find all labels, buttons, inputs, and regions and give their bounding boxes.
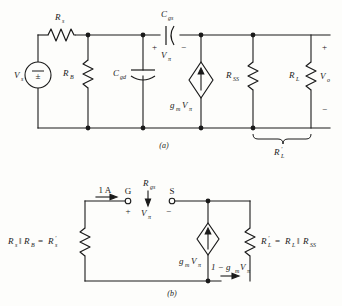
- capacitor-cgs-sub: gs: [168, 15, 174, 21]
- left-res-equals: =: [38, 236, 43, 246]
- figure-container: ± V s R s R B C: [0, 0, 342, 306]
- vo-sub: o: [327, 77, 330, 83]
- left-res-result: R: [47, 236, 54, 246]
- resistor-rss: R SS: [225, 33, 258, 131]
- depsrc-a-gm-label: g: [170, 100, 175, 110]
- capacitor-cgd: C gd: [113, 33, 155, 131]
- depsrc-a-v-label: V: [182, 100, 189, 110]
- resistor-rl-sub: L: [295, 76, 300, 82]
- rlp-rss: R: [302, 236, 309, 246]
- depsrc-b-gm-sub: m: [185, 262, 190, 268]
- circuit-a: ± V s R s R B C: [14, 9, 330, 159]
- vpi-label: V: [161, 50, 168, 60]
- vo-minus-sign: −: [322, 104, 327, 114]
- rlp-label: R: [260, 236, 267, 246]
- depsrc-b-v-label: V: [191, 256, 198, 266]
- capacitor-cgd-sub: gd: [120, 74, 127, 80]
- vo-plus-sign: +: [322, 42, 327, 52]
- vpi-plus-sign: +: [152, 42, 157, 52]
- brace-rl-sub: L: [280, 153, 285, 159]
- left-res-result-sub: s: [55, 242, 58, 248]
- resistor-rl: R L + V o −: [288, 35, 330, 128]
- rlp-rl-sub: L: [291, 242, 296, 248]
- rlp-sub: L: [267, 242, 272, 248]
- circuit-diagram-svg: ± V s R s R B C: [0, 0, 342, 306]
- terminal-s-label: S: [169, 186, 174, 196]
- brace-rl-prime: R ′ L: [253, 134, 311, 159]
- resistor-rl-prime-b: R ′ L = R L ‖ R SS: [245, 201, 316, 281]
- resistor-rgs-label: R: [142, 178, 149, 188]
- vpi-minus-sign: −: [181, 42, 186, 52]
- vpi-b-sub: π: [148, 214, 152, 220]
- branch-current-annotation: 1 − g m V π: [211, 262, 251, 279]
- left-res-parallel-1: ‖: [19, 236, 22, 246]
- left-res-rb-sub: B: [31, 242, 35, 248]
- resistor-rss-sub: SS: [233, 76, 239, 82]
- node-dot-rss-bottom: [251, 126, 256, 131]
- resistor-rgs-sub: gs: [150, 184, 156, 190]
- depsrc-b-gm-label: g: [179, 256, 184, 266]
- figure-caption-b: (b): [167, 289, 177, 298]
- vpi-b-label: V: [141, 208, 148, 218]
- resistor-rgs-annotation: R gs: [142, 178, 156, 206]
- capacitor-cgs-label: C: [161, 9, 168, 19]
- terminal-g: G +: [125, 186, 132, 216]
- left-resistor-expression: R s ‖ R B = R ′ s: [7, 235, 58, 248]
- capacitor-cgd-label: C: [113, 68, 120, 78]
- resistor-rl-label: R: [288, 70, 295, 80]
- vpi-b-plus-sign: +: [125, 206, 130, 216]
- vpi-sub: π: [168, 56, 172, 62]
- left-res-result-prime: ′: [55, 235, 57, 241]
- vpi-b-minus-sign: −: [166, 206, 171, 216]
- resistor-rs-label: R: [54, 12, 61, 22]
- node-dot-cgd-bottom: [141, 126, 146, 131]
- vpi-b-annotation: V π −: [141, 206, 171, 220]
- depsrc-a-v-sub: π: [189, 106, 193, 112]
- circuit-b: 1 A G + R gs V π − S: [7, 178, 316, 298]
- resistor-rb: R B: [62, 33, 93, 131]
- resistor-rb-sub: B: [70, 74, 74, 80]
- depsrc-b-v-sub: π: [198, 262, 202, 268]
- voltage-source-vs: ± V s: [14, 35, 51, 128]
- source-plusminus-symbol: ±: [36, 71, 41, 81]
- brace-rl-prime-mark: ′: [281, 146, 283, 152]
- node-dot-b-depsrc-bottom: [206, 279, 211, 284]
- current-injection-1a: 1 A: [96, 185, 117, 200]
- rlp-equals: =: [275, 236, 280, 246]
- branch-current-v: V: [240, 262, 247, 272]
- rlp-prime-mark: ′: [268, 235, 270, 241]
- source-label-sub: s: [21, 76, 24, 82]
- left-res-rs: R: [7, 236, 14, 246]
- node-dot-rb-bottom: [86, 126, 91, 131]
- rlp-parallel: ‖: [297, 236, 300, 246]
- resistor-rs-sub: s: [62, 18, 65, 24]
- branch-current-label: 1 − g: [211, 262, 231, 272]
- brace-rl-label: R: [273, 147, 280, 157]
- depsrc-a-gm-sub: m: [176, 106, 181, 112]
- resistor-rb-label: R: [62, 68, 69, 78]
- resistor-rss-label: R: [225, 70, 232, 80]
- source-label: V: [14, 70, 21, 80]
- resistor-rs: R s: [48, 12, 76, 41]
- circuit-b-left-loop: [80, 201, 221, 281]
- vo-label: V: [320, 71, 327, 81]
- terminal-s: S: [169, 186, 175, 204]
- terminal-g-label: G: [125, 186, 132, 196]
- figure-caption-a: (a): [159, 141, 169, 150]
- left-res-rb: R: [23, 236, 30, 246]
- rlp-rl: R: [284, 236, 291, 246]
- current-value-label: 1 A: [99, 185, 112, 195]
- left-res-rs-sub: s: [15, 242, 18, 248]
- node-dot-depsrc-bottom: [199, 126, 204, 131]
- dependent-current-source-a: g m V π: [170, 33, 213, 131]
- rlp-rss-sub: SS: [310, 242, 316, 248]
